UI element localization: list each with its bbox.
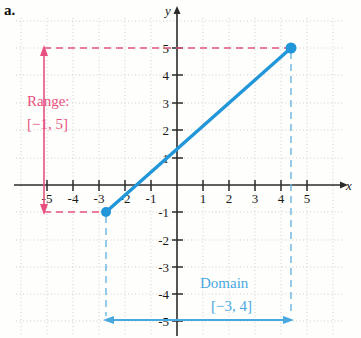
y-tick-label: -5	[158, 314, 169, 329]
x-tick-label: 3	[252, 191, 259, 206]
domain-label-title: Domain	[200, 275, 249, 291]
x-tick-label: 1	[200, 191, 207, 206]
y-tick-label: -1	[158, 205, 169, 220]
function-line-segment	[106, 48, 291, 212]
y-tick-label: -4	[158, 287, 169, 302]
domain-label-interval: [−3, 4]	[211, 298, 252, 314]
domain-arrow-left	[103, 316, 114, 324]
x-tick-label: 5	[304, 191, 311, 206]
left-endpoint-marker	[101, 207, 111, 217]
x-tick-label: 4	[278, 191, 285, 206]
y-axis-label: y	[163, 3, 171, 18]
y-tick-label: -3	[158, 260, 169, 275]
y-axis-arrowhead	[174, 6, 181, 14]
x-tick-label: 2	[226, 191, 233, 206]
graph-figure: a.	[0, 0, 361, 338]
range-arrow-down	[40, 204, 48, 215]
x-tick-labels: -5 -4 -3 -2 -1 1 2 3 4 5	[42, 191, 311, 206]
domain-arrow-right	[283, 316, 294, 324]
x-tick-label: -4	[68, 191, 79, 206]
x-tick-label: -3	[94, 191, 105, 206]
right-endpoint-marker	[286, 43, 297, 54]
y-tick-label: 2	[163, 123, 170, 138]
coordinate-plane: -5 -4 -3 -2 -1 1 2 3 4 5 5 4 3 2 1 -1 -2…	[0, 0, 361, 338]
y-tick-label: -2	[158, 233, 169, 248]
range-label-interval: [−1, 5]	[27, 116, 68, 132]
range-label-title: Range:	[27, 93, 70, 109]
y-tick-label: 3	[163, 96, 170, 111]
x-tick-label: -1	[146, 191, 157, 206]
y-tick-label: 4	[163, 68, 170, 83]
domain-double-arrow	[103, 316, 294, 324]
grid-lines	[16, 18, 345, 336]
domain-dashed-leaders	[106, 52, 291, 316]
x-axis-label: x	[345, 178, 352, 193]
